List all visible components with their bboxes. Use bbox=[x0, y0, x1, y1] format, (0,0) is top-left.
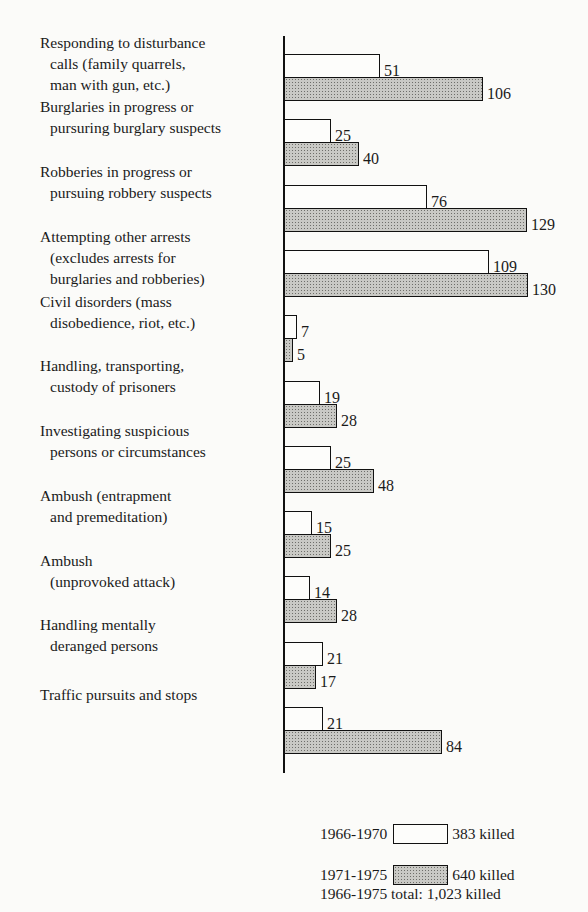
category-label-line: pursuing robbery suspects bbox=[40, 182, 212, 203]
category-label-line: (unprovoked attack) bbox=[40, 571, 175, 592]
bar-white-1966-1970 bbox=[284, 707, 323, 731]
category-label: Ambush (entrapmentand premeditation) bbox=[40, 485, 171, 527]
bar-shaded-1971-1975 bbox=[284, 469, 374, 493]
bar-shaded-1971-1975 bbox=[284, 534, 331, 558]
category-label-line: Ambush bbox=[40, 550, 175, 571]
legend-swatch-shaded bbox=[393, 865, 448, 885]
value-label: 17 bbox=[320, 673, 336, 691]
category-label-line: Handling mentally bbox=[40, 614, 158, 635]
bar-shaded-1971-1975 bbox=[284, 77, 483, 101]
category-label: Traffic pursuits and stops bbox=[40, 684, 197, 705]
category-label-line: Responding to disturbance bbox=[40, 32, 205, 53]
bar-shaded-1971-1975 bbox=[284, 338, 293, 362]
bar-white-1966-1970 bbox=[284, 315, 297, 339]
grand-total-label: 1966-1975 total: 1,023 killed bbox=[320, 884, 501, 904]
category-label: Responding to disturbancecalls (family q… bbox=[40, 32, 205, 95]
bar-white-1966-1970 bbox=[284, 576, 310, 600]
bar-shaded-1971-1975 bbox=[284, 142, 359, 166]
value-label: 84 bbox=[446, 738, 462, 756]
category-label: Handling mentallyderanged persons bbox=[40, 614, 158, 656]
value-label: 25 bbox=[335, 542, 351, 560]
bar-shaded-1971-1975 bbox=[284, 599, 337, 623]
bar-shaded-1971-1975 bbox=[284, 730, 442, 754]
category-label-line: Burglaries in progress or bbox=[40, 96, 221, 117]
category-label-line: Robberies in progress or bbox=[40, 161, 212, 182]
bar-white-1966-1970 bbox=[284, 54, 380, 78]
bar-white-1966-1970 bbox=[284, 381, 320, 405]
bar-white-1966-1970 bbox=[284, 119, 331, 143]
legend-item-1966-1970: 1966-1970 383 killed bbox=[320, 824, 515, 844]
category-label-line: Traffic pursuits and stops bbox=[40, 684, 197, 705]
category-label: Investigating suspiciouspersons or circu… bbox=[40, 420, 206, 462]
category-label-line: deranged persons bbox=[40, 635, 158, 656]
category-label-line: custody of prisoners bbox=[40, 376, 184, 397]
value-label: 40 bbox=[363, 150, 379, 168]
category-label: Attempting other arrests(excludes arrest… bbox=[40, 226, 205, 289]
value-label: 28 bbox=[341, 412, 357, 430]
value-label: 7 bbox=[301, 323, 309, 341]
value-label: 21 bbox=[327, 650, 343, 668]
legend-total-label: 383 killed bbox=[452, 824, 514, 844]
category-label-line: disobedience, riot, etc.) bbox=[40, 312, 195, 333]
value-label: 130 bbox=[532, 281, 556, 299]
bar-white-1966-1970 bbox=[284, 511, 312, 535]
category-label: Robberies in progress orpursuing robbery… bbox=[40, 161, 212, 203]
category-label-line: calls (family quarrels, bbox=[40, 53, 205, 74]
category-label-line: persons or circumstances bbox=[40, 441, 206, 462]
legend-swatch-white bbox=[393, 824, 448, 844]
category-label-line: pursuring burglary suspects bbox=[40, 117, 221, 138]
category-label-line: Handling, transporting, bbox=[40, 355, 184, 376]
category-label-line: Investigating suspicious bbox=[40, 420, 206, 441]
legend-item-1971-1975: 1971-1975 640 killed bbox=[320, 865, 515, 885]
value-label: 129 bbox=[531, 216, 555, 234]
category-label-line: and premeditation) bbox=[40, 506, 171, 527]
legend-total-label: 640 killed bbox=[452, 865, 514, 885]
category-label: Civil disorders (massdisobedience, riot,… bbox=[40, 291, 195, 333]
value-label: 106 bbox=[487, 85, 511, 103]
value-label: 48 bbox=[378, 477, 394, 495]
bar-shaded-1971-1975 bbox=[284, 273, 528, 297]
category-label-line: (excludes arrests for bbox=[40, 247, 205, 268]
bar-white-1966-1970 bbox=[284, 185, 427, 209]
bar-white-1966-1970 bbox=[284, 250, 489, 274]
legend-period-label: 1966-1970 bbox=[320, 824, 387, 844]
category-label-line: Ambush (entrapment bbox=[40, 485, 171, 506]
category-label: Burglaries in progress orpursuring burgl… bbox=[40, 96, 221, 138]
value-label: 28 bbox=[341, 607, 357, 625]
category-label-line: Civil disorders (mass bbox=[40, 291, 195, 312]
legend-grand-total: 1966-1975 total: 1,023 killed bbox=[320, 884, 501, 904]
bar-white-1966-1970 bbox=[284, 446, 331, 470]
bar-shaded-1971-1975 bbox=[284, 208, 527, 232]
category-label: Handling, transporting,custody of prison… bbox=[40, 355, 184, 397]
category-label: Ambush(unprovoked attack) bbox=[40, 550, 175, 592]
category-label-line: man with gun, etc.) bbox=[40, 74, 205, 95]
bar-shaded-1971-1975 bbox=[284, 404, 337, 428]
bar-white-1966-1970 bbox=[284, 642, 323, 666]
category-label-line: burglaries and robberies) bbox=[40, 268, 205, 289]
legend-period-label: 1971-1975 bbox=[320, 865, 387, 885]
category-label-line: Attempting other arrests bbox=[40, 226, 205, 247]
bar-shaded-1971-1975 bbox=[284, 665, 316, 689]
value-label: 5 bbox=[297, 346, 305, 364]
